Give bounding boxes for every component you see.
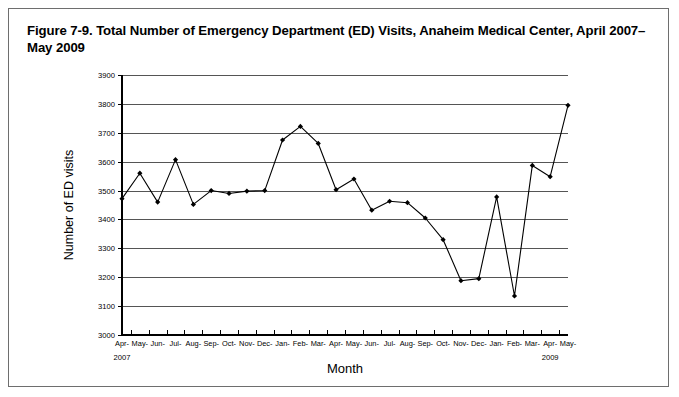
x-tick-label: Jul- — [170, 339, 182, 348]
data-point-marker — [494, 194, 499, 199]
y-tick-label: 3100 — [98, 302, 115, 311]
x-tick-label: Oct- — [436, 339, 450, 348]
x-tick-label: Nov- — [239, 339, 255, 348]
data-point-marker — [369, 208, 374, 213]
y-tick-label: 3900 — [98, 71, 115, 80]
chart-svg: 3000310032003300340035003600370038003900… — [0, 0, 679, 397]
x-tick-label: Sep- — [203, 339, 219, 348]
data-point-marker — [512, 293, 517, 298]
y-tick-label: 3400 — [98, 215, 115, 224]
ed-visits-line-chart: 3000310032003300340035003600370038003900… — [0, 0, 679, 397]
gridlines-group — [122, 76, 568, 307]
x-tick-label: Dec- — [471, 339, 487, 348]
x-tick-label: Feb- — [293, 339, 309, 348]
data-point-marker — [387, 199, 392, 204]
x-axis-title: Month — [327, 361, 363, 376]
data-point-marker — [476, 276, 481, 281]
x-tick-label: Jul- — [384, 339, 396, 348]
data-point-marker — [548, 174, 553, 179]
data-point-marker — [244, 189, 249, 194]
x-tick-label: Mar- — [311, 339, 327, 348]
y-tick-label: 3300 — [98, 244, 115, 253]
y-tick-label: 3500 — [98, 187, 115, 196]
x-tick-label: Oct- — [222, 339, 236, 348]
y-tick-label: 3200 — [98, 273, 115, 282]
x-tick-label: Mar- — [525, 339, 541, 348]
data-point-marker — [262, 188, 267, 193]
x-tick-label: Aug- — [400, 339, 416, 348]
x-tick-marks-group — [132, 330, 560, 335]
x-tick-label: Aug- — [186, 339, 202, 348]
y-axis-title: Number of ED visits — [62, 150, 76, 260]
data-point-marker — [565, 103, 570, 108]
data-point-marker — [458, 278, 463, 283]
x-tick-label: May- — [346, 339, 363, 348]
x-tick-label: Apr- — [115, 339, 130, 348]
x-tick-label: Jan- — [489, 339, 504, 348]
y-tick-label: 3800 — [98, 100, 115, 109]
x-tick-label: Sep- — [417, 339, 433, 348]
x-tick-label: Jan- — [275, 339, 290, 348]
y-tick-label: 3700 — [98, 129, 115, 138]
x-tick-label: Feb- — [507, 339, 523, 348]
year-annotation: 2007 — [114, 353, 131, 362]
x-tick-label: Apr- — [543, 339, 558, 348]
series-markers-group — [119, 103, 570, 299]
x-tick-label: Nov- — [453, 339, 469, 348]
x-tick-labels-group: Apr-May-Jun-Jul-Aug-Sep-Oct-Nov-Dec-Jan-… — [115, 339, 577, 348]
y-tick-label: 3000 — [98, 331, 115, 340]
x-tick-label: Jun- — [365, 339, 380, 348]
y-tick-labels-group: 3000310032003300340035003600370038003900 — [98, 71, 115, 340]
x-tick-label: Apr- — [329, 339, 344, 348]
x-tick-label: May- — [132, 339, 149, 348]
data-point-marker — [351, 176, 356, 181]
y-tick-label: 3600 — [98, 158, 115, 167]
x-tick-label: Dec- — [257, 339, 273, 348]
data-point-marker — [155, 200, 160, 205]
x-tick-label: Jun- — [150, 339, 165, 348]
x-tick-label: May- — [560, 339, 577, 348]
data-point-marker — [173, 157, 178, 162]
year-annotation: 2009 — [542, 353, 559, 362]
data-point-marker — [530, 163, 535, 168]
